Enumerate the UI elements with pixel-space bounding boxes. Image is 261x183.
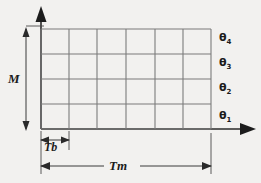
theta-subscript-2: 2 <box>227 88 232 96</box>
row-label-theta-2: θ2 <box>219 82 231 96</box>
grid-group <box>41 29 211 129</box>
row-label-theta-3: θ3 <box>219 57 231 71</box>
row-label-theta-4: θ4 <box>219 32 231 46</box>
tb-dimension-label: Tb <box>44 141 57 153</box>
tm-arrowhead-right <box>202 162 212 170</box>
m-dimension-label: M <box>8 72 20 85</box>
m-arrowhead-bottom <box>23 121 30 131</box>
figure-canvas: θ4 θ3 θ2 θ1 M Tb Tm <box>0 0 261 183</box>
tm-arrowhead-left <box>40 162 50 170</box>
theta-symbol-3: θ <box>219 56 227 69</box>
tm-dimension-label: Tm <box>109 159 127 172</box>
m-arrowhead-top <box>23 27 30 37</box>
theta-symbol-1: θ <box>219 109 227 122</box>
theta-symbol-4: θ <box>219 31 227 44</box>
theta-subscript-3: 3 <box>227 63 232 71</box>
horizontal-axis-arrowhead <box>240 123 256 135</box>
vertical-axis-arrowhead <box>36 6 47 22</box>
theta-subscript-1: 1 <box>227 116 232 124</box>
theta-symbol-2: θ <box>219 81 227 94</box>
row-label-theta-1: θ1 <box>219 110 231 124</box>
theta-subscript-4: 4 <box>227 38 232 46</box>
